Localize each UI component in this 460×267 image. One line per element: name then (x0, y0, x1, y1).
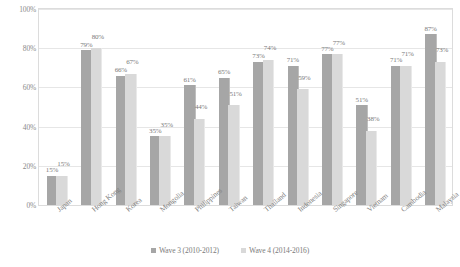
x-axis-tick-label: Japan (55, 207, 61, 214)
bar-value-label: 51% (226, 90, 245, 98)
bar (125, 74, 137, 205)
bar-group: 79%80% (81, 9, 102, 205)
bar-value-label: 35% (157, 121, 176, 129)
bar-value-label: 38% (364, 115, 383, 123)
bar-value-label: 80% (89, 33, 108, 41)
x-axis-tick-label: Taiwan (227, 207, 233, 214)
bar (159, 136, 171, 205)
x-axis-tick-label: Philippines (193, 207, 199, 214)
bar (332, 54, 344, 205)
bar-group: 35%35% (150, 9, 171, 205)
bar-value-label: 77% (330, 39, 349, 47)
bar (400, 66, 412, 205)
bar-group: 77%77% (322, 9, 343, 205)
legend-label: Wave 3 (2010-2012) (159, 246, 219, 255)
x-axis-tick-label: Singapore (331, 207, 337, 214)
bar-value-label: 71% (398, 50, 417, 58)
bar (435, 62, 447, 205)
y-axis-tick-label: 100% (2, 5, 36, 14)
legend-item[interactable]: Wave 3 (2010-2012) (151, 246, 219, 255)
y-axis-tick-label: 60% (2, 83, 36, 92)
bar-value-label: 59% (295, 74, 314, 82)
bar-group: 71%59% (288, 9, 309, 205)
chart-legend: Wave 3 (2010-2012)Wave 4 (2014-2016) (0, 246, 460, 255)
bar (228, 105, 240, 205)
bar-value-label: 51% (352, 96, 371, 104)
legend-swatch-icon (241, 248, 246, 253)
x-axis-tick-label: Hong Kong (90, 207, 96, 214)
bar-value-label: 61% (180, 76, 199, 84)
y-axis-tick-label: 80% (2, 44, 36, 53)
bar-value-label: 87% (421, 25, 440, 33)
y-axis-tick-label: 0% (2, 201, 36, 210)
bar-group: 15%15% (47, 9, 68, 205)
legend-swatch-icon (151, 248, 156, 253)
y-axis-tick-label: 20% (2, 161, 36, 170)
legend-label: Wave 4 (2014-2016) (249, 246, 309, 255)
bar-value-label: 15% (54, 160, 73, 168)
bar-value-label: 74% (261, 44, 280, 52)
bar-value-label: 71% (284, 56, 303, 64)
legend-item[interactable]: Wave 4 (2014-2016) (241, 246, 309, 255)
bar-value-label: 67% (123, 58, 142, 66)
bar-group: 51%38% (356, 9, 377, 205)
bar-value-label: 44% (192, 103, 211, 111)
bar-group: 73%74% (253, 9, 274, 205)
bar (297, 89, 309, 205)
x-axis-tick-label: Cambodia (399, 207, 405, 214)
x-axis-tick-label: Korea (124, 207, 130, 214)
x-axis-tick-label: Vietnam (365, 207, 371, 214)
bar-group: 66%67% (116, 9, 137, 205)
bar (366, 131, 378, 205)
bar-value-label: 73% (433, 46, 452, 54)
bar-group: 61%44% (184, 9, 205, 205)
bar (263, 60, 275, 205)
y-axis-tick-label: 40% (2, 122, 36, 131)
bar-group: 87%73% (425, 9, 446, 205)
bar-group: 65%51% (219, 9, 240, 205)
bar-chart: 15%15%79%80%66%67%35%35%61%44%65%51%73%7… (0, 0, 460, 267)
x-axis-tick-label: Indonesia (296, 207, 302, 214)
bar (194, 119, 206, 205)
x-axis-tick-label: Thailand (262, 207, 268, 214)
bar (91, 48, 103, 205)
x-axis: JapanHong KongKoreaMongoliaPhilippinesTa… (39, 207, 452, 251)
bar-group: 71%71% (391, 9, 412, 205)
x-axis-tick-label: Malaysia (434, 207, 440, 214)
bar-value-label: 65% (215, 68, 234, 76)
x-axis-tick-label: Mongolia (158, 207, 164, 214)
bars-layer: 15%15%79%80%66%67%35%35%61%44%65%51%73%7… (39, 9, 452, 205)
